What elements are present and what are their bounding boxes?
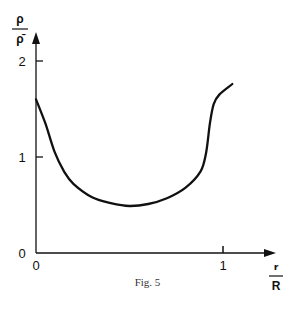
figure-caption: Fig. 5 xyxy=(0,276,295,288)
x-label-overlay: R xyxy=(0,0,295,310)
